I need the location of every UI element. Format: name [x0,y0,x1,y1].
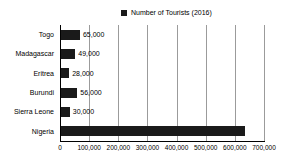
value-label: 56,000 [80,89,101,96]
value-label: 65,000 [83,31,104,38]
bars-layer: 65,00049,00028,00056,00030,000 [61,25,265,141]
x-tick-label: 100,000 [77,144,101,151]
x-tick-label: 600,000 [223,144,247,151]
category-label-sierra-leone: Sierra Leone [0,102,55,121]
bar-row: 65,000 [61,25,265,44]
value-label: 49,000 [78,50,99,57]
bar-madagascar [61,49,75,59]
category-label-togo: Togo [0,25,55,44]
bar-sierra-leone [61,107,70,117]
bar-row: 56,000 [61,83,265,102]
x-tick-label: 0 [58,144,62,151]
x-tick-label: 200,000 [107,144,131,151]
bar-row [61,122,265,141]
bar-row: 28,000 [61,64,265,83]
category-label-eritrea: Eritrea [0,64,55,83]
x-tick-label: 400,000 [165,144,189,151]
value-axis-labels: 0100,000200,000300,000400,000500,000600,… [60,144,264,154]
legend-swatch-icon [121,10,127,16]
bar-row: 30,000 [61,102,265,121]
category-label-madagascar: Madagascar [0,44,55,63]
x-tick-label: 700,000 [252,144,276,151]
value-label: 28,000 [72,70,93,77]
tourists-bar-chart: Number of Tourists (2016) TogoMadagascar… [0,0,284,159]
bar-togo [61,30,80,40]
bar-nigeria [61,126,245,136]
category-label-nigeria: Nigeria [0,122,55,141]
x-tick-label: 500,000 [194,144,218,151]
x-tick-label: 300,000 [136,144,160,151]
bar-burundi [61,88,77,98]
category-label-burundi: Burundi [0,83,55,102]
legend: Number of Tourists (2016) [121,9,212,17]
plot-area: 65,00049,00028,00056,00030,000 [60,25,265,142]
category-axis-labels: TogoMadagascarEritreaBurundiSierra Leone… [0,25,55,141]
legend-label: Number of Tourists (2016) [131,9,212,17]
bar-row: 49,000 [61,44,265,63]
bar-eritrea [61,68,69,78]
value-label: 30,000 [73,108,94,115]
